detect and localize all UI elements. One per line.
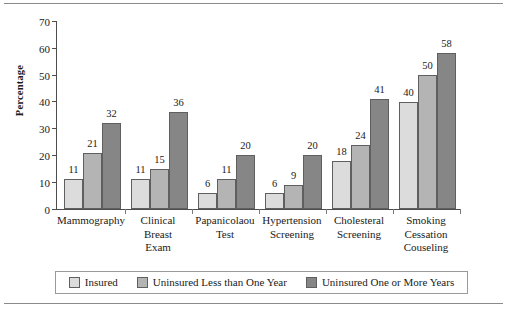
bar-papanicolaou-test-uninsured-1y-plus[interactable]: 20 — [236, 155, 255, 209]
legend-swatch-uninsured-one-or-more-years — [306, 277, 317, 288]
bar-value-papanicolaou-test-uninsured-1y-plus: 20 — [240, 141, 251, 152]
bar-chart: Percentage 0 10 20 30 40 50 60 70 11 21 … — [0, 0, 507, 310]
y-tick-mark-30 — [52, 128, 57, 129]
bar-smoking-cessation-couseling-insured[interactable]: 40 — [399, 102, 418, 209]
bar-clinical-breast-exam-uninsured-lt-1y[interactable]: 15 — [150, 169, 169, 209]
bar-value-mammography-insured: 11 — [68, 165, 78, 176]
legend-swatch-insured — [69, 277, 80, 288]
bar-value-smoking-cessation-couseling-uninsured-lt-1y: 50 — [422, 61, 433, 72]
bar-value-smoking-cessation-couseling-insured: 40 — [403, 88, 414, 99]
y-tick-label-20: 20 — [20, 151, 50, 162]
bar-value-clinical-breast-exam-uninsured-lt-1y: 15 — [154, 155, 165, 166]
chart-legend: Insured Uninsured Less than One Year Uni… — [55, 271, 468, 294]
bar-clinical-breast-exam-insured[interactable]: 11 — [131, 179, 150, 209]
y-tick-label-60: 60 — [20, 44, 50, 55]
legend-label-uninsured-less-than-one-year: Uninsured Less than One Year — [153, 277, 287, 288]
bar-value-hypertension-screening-uninsured-lt-1y: 9 — [291, 171, 296, 182]
bar-value-hypertension-screening-insured: 6 — [272, 179, 277, 190]
bar-papanicolaou-test-insured[interactable]: 6 — [198, 193, 217, 209]
legend-item-uninsured-less-than-one-year[interactable]: Uninsured Less than One Year — [137, 277, 287, 288]
bar-mammography-uninsured-lt-1y[interactable]: 21 — [83, 153, 102, 209]
legend-swatch-uninsured-less-than-one-year — [137, 277, 148, 288]
bar-value-cholesteral-screening-uninsured-1y-plus: 41 — [374, 85, 385, 96]
legend-label-insured: Insured — [85, 277, 118, 288]
bar-mammography-insured[interactable]: 11 — [64, 179, 83, 209]
x-axis-label-smoking-cessation-couseling-line-2: Cessation — [374, 228, 478, 242]
y-tick-mark-50 — [52, 75, 57, 76]
x-axis-line — [56, 209, 460, 210]
bar-mammography-uninsured-1y-plus[interactable]: 32 — [102, 123, 121, 209]
y-tick-mark-0 — [52, 209, 57, 210]
bar-value-cholesteral-screening-insured: 18 — [336, 147, 347, 158]
y-tick-mark-10 — [52, 182, 57, 183]
bar-value-papanicolaou-test-uninsured-lt-1y: 11 — [221, 165, 231, 176]
bar-cholesteral-screening-uninsured-lt-1y[interactable]: 24 — [351, 145, 370, 210]
bar-clinical-breast-exam-uninsured-1y-plus[interactable]: 36 — [169, 112, 188, 209]
bar-hypertension-screening-uninsured-1y-plus[interactable]: 20 — [303, 155, 322, 209]
y-tick-label-50: 50 — [20, 71, 50, 82]
bar-hypertension-screening-insured[interactable]: 6 — [265, 193, 284, 209]
legend-label-uninsured-one-or-more-years: Uninsured One or More Years — [322, 277, 454, 288]
bar-value-hypertension-screening-uninsured-1y-plus: 20 — [307, 141, 318, 152]
y-tick-mark-20 — [52, 155, 57, 156]
x-axis-label-smoking-cessation-couseling-line-3: Couseling — [374, 241, 478, 255]
y-tick-mark-70 — [52, 21, 57, 22]
y-tick-label-10: 10 — [20, 178, 50, 189]
bar-value-clinical-breast-exam-insured: 11 — [135, 165, 145, 176]
y-tick-label-70: 70 — [20, 17, 50, 28]
bar-smoking-cessation-couseling-uninsured-1y-plus[interactable]: 58 — [437, 53, 456, 209]
legend-item-uninsured-one-or-more-years[interactable]: Uninsured One or More Years — [306, 277, 454, 288]
y-tick-label-30: 30 — [20, 124, 50, 135]
bar-papanicolaou-test-uninsured-lt-1y[interactable]: 11 — [217, 179, 236, 209]
legend-item-insured[interactable]: Insured — [69, 277, 118, 288]
x-axis-label-smoking-cessation-couseling: Smoking Cessation Couseling — [374, 214, 478, 255]
bar-value-clinical-breast-exam-uninsured-1y-plus: 36 — [173, 98, 184, 109]
bar-value-papanicolaou-test-insured: 6 — [205, 179, 210, 190]
bar-value-smoking-cessation-couseling-uninsured-1y-plus: 58 — [441, 39, 452, 50]
y-tick-mark-40 — [52, 101, 57, 102]
bar-hypertension-screening-uninsured-lt-1y[interactable]: 9 — [284, 185, 303, 209]
bar-value-mammography-uninsured-1y-plus: 32 — [106, 109, 117, 120]
x-axis-label-clinical-breast-exam-line-3: Exam — [106, 241, 210, 255]
y-tick-mark-60 — [52, 48, 57, 49]
x-axis-label-smoking-cessation-couseling-line-1: Smoking — [374, 214, 478, 228]
bar-value-mammography-uninsured-lt-1y: 21 — [87, 139, 98, 150]
y-tick-label-40: 40 — [20, 97, 50, 108]
bar-value-cholesteral-screening-uninsured-lt-1y: 24 — [355, 131, 366, 142]
bar-cholesteral-screening-uninsured-1y-plus[interactable]: 41 — [370, 99, 389, 209]
y-axis-title: Percentage — [14, 51, 25, 131]
bar-smoking-cessation-couseling-uninsured-lt-1y[interactable]: 50 — [418, 75, 437, 209]
bar-cholesteral-screening-insured[interactable]: 18 — [332, 161, 351, 209]
